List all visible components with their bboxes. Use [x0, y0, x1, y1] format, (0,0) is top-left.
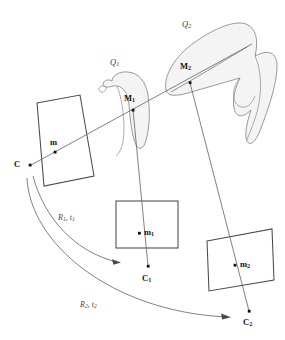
- label-camera-center-2: C2: [243, 318, 252, 327]
- space-curve-fold-q1: [116, 86, 124, 156]
- point-marker-m2-image: [234, 264, 237, 267]
- label-motion-1: R1, t1: [58, 214, 75, 223]
- label-space-point-m2-sub: 2: [188, 65, 191, 71]
- label-motion-1-trans-sub: 1: [72, 216, 75, 222]
- image-plane-0: [37, 95, 94, 186]
- viewing-ray-camera-2: [190, 83, 249, 311]
- image-plane-1: [116, 201, 178, 248]
- label-image-point-m1-sub: 1: [151, 231, 154, 237]
- label-space-point-m1: M1: [124, 94, 135, 103]
- point-marker-c2: [248, 310, 251, 313]
- label-space-curve-q1: Q1: [110, 58, 119, 67]
- label-motion-2-trans-sub: 2: [94, 303, 97, 309]
- point-marker-m2-space: [189, 81, 192, 84]
- label-image-point-m2-sub: 2: [247, 263, 250, 269]
- point-marker-c1: [147, 265, 150, 268]
- label-space-point-m2-base: M: [180, 61, 188, 71]
- label-camera-center-2-sub: 2: [249, 321, 252, 327]
- space-curve-surface-q1: [103, 72, 149, 149]
- point-marker-m: [54, 151, 57, 154]
- label-space-curve-q2: Q2: [182, 20, 191, 29]
- figure-canvas: C m Q1 M1 Q2 M2 m1 C1 m2 C2 R1, t1 R2, t…: [0, 0, 285, 340]
- label-motion-2: R2, t2: [80, 301, 97, 310]
- label-camera-center-0: C: [14, 160, 20, 169]
- label-image-point-m1: m1: [144, 228, 154, 237]
- point-marker-m1-image: [138, 232, 141, 235]
- label-space-point-m1-sub: 1: [132, 97, 135, 103]
- label-space-point-m1-base: M: [124, 93, 132, 103]
- label-camera-center-1: C1: [142, 274, 151, 283]
- motion-arc-2-arrowhead: [221, 314, 231, 320]
- label-space-point-m2: M2: [180, 62, 191, 71]
- point-marker-c: [29, 164, 32, 167]
- label-space-curve-q2-sub: 2: [188, 23, 191, 29]
- motion-arc-1-arrowhead: [112, 259, 121, 265]
- diagram-svg: [0, 0, 285, 340]
- label-image-point-m2: m2: [240, 260, 250, 269]
- label-camera-center-1-sub: 1: [148, 277, 151, 283]
- label-space-curve-q1-sub: 1: [116, 61, 119, 67]
- point-marker-m1-space: [132, 109, 135, 112]
- label-image-point-0: m: [50, 138, 57, 147]
- motion-arc-1: [33, 176, 117, 262]
